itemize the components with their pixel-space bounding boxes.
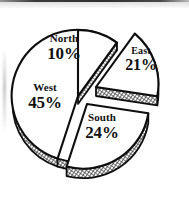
pie-chart-figure: North 10% East 21% West 45% South 24% [0,0,189,200]
pie-label-north-name: North [36,33,92,44]
pie-label-west-name: West [14,82,76,93]
pie-label-north-value: 10% [36,45,92,62]
pie-label-north: North 10% [36,33,92,62]
pie-label-east-value: 21% [114,57,168,73]
pie-label-south: South 24% [70,112,134,141]
pie-label-east: East 21% [114,46,168,73]
pie-label-west-value: 45% [14,94,76,111]
pie-label-south-name: South [70,112,134,123]
pie-label-east-name: East [114,46,168,56]
pie-label-west: West 45% [14,82,76,111]
pie-label-south-value: 24% [70,124,134,141]
